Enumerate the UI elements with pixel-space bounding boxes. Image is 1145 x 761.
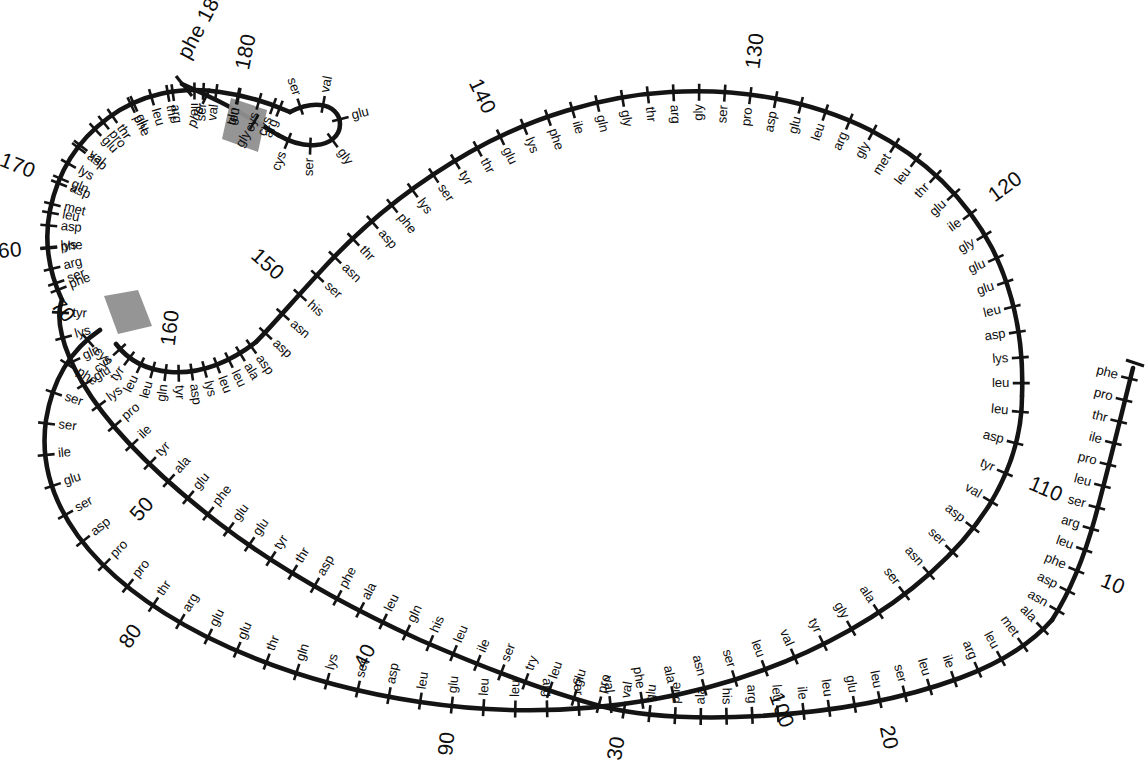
residue-label: thr [263, 633, 283, 653]
residue-label: thr [643, 106, 660, 123]
residue-tick [752, 707, 753, 724]
residue-label: gly [955, 234, 977, 256]
residue-label: val [317, 75, 335, 94]
residue-tick [172, 84, 174, 101]
residue-number-50: 50 [125, 492, 158, 525]
residue-label: his [305, 297, 328, 320]
residue-label: tyr [270, 531, 291, 552]
residue-label: pro [1077, 449, 1099, 468]
residue-label: gly [852, 139, 873, 161]
residue-label: gln [153, 383, 170, 402]
n-terminus-endbar [1126, 360, 1144, 366]
residue-label: thr [292, 544, 313, 565]
residue-label: ser [891, 663, 910, 685]
residue-label: arg [540, 678, 555, 697]
residue-number-90: 90 [433, 731, 458, 757]
residue-tick [451, 697, 453, 714]
residue-label: ser [1066, 491, 1088, 510]
residue-layer: pheprothrileproleuserargleupheaspasnalam… [38, 75, 1138, 725]
residue-label: glu [843, 674, 861, 694]
residue-label: lys [322, 652, 341, 672]
residue-tick [649, 705, 651, 722]
residue-label: glu [61, 469, 82, 489]
residue-label: glu [500, 144, 521, 166]
residue-label: phe [1095, 362, 1120, 382]
residue-label: ser [63, 389, 86, 409]
residue-label: ser [322, 278, 346, 302]
residue-label: val [777, 627, 797, 648]
residue-tick [1009, 331, 1026, 334]
residue-label: ser [301, 157, 317, 176]
residue-label: phe [1043, 550, 1069, 572]
residue-label: arg [830, 129, 851, 152]
residue-label: ser [570, 677, 586, 697]
residue-label: gly [831, 599, 852, 621]
residue-label: asn [690, 653, 710, 677]
residue-label: arg [1060, 512, 1082, 532]
residue-label: glu [975, 278, 996, 298]
residue-label: asp [383, 662, 402, 685]
residue-label: thr [153, 577, 174, 598]
residue-number-10: 10 [1098, 568, 1129, 598]
residue-tick [387, 687, 390, 704]
residue-label: ala [170, 453, 193, 476]
residue-label: arg [744, 684, 760, 703]
residue-label: gln [404, 602, 425, 624]
residue-label: asp [187, 383, 205, 406]
residue-label: leu [819, 678, 836, 697]
residue-tick [828, 700, 830, 717]
residue-label: phe [546, 126, 567, 151]
residue-label: lys [992, 350, 1009, 366]
residue-label: glu [190, 469, 213, 492]
residue-tick [165, 364, 167, 381]
residue-number-130: 130 [740, 31, 767, 70]
residue-label: ser [72, 492, 96, 514]
residue-label: asp [981, 427, 1005, 447]
residue-label: asp [270, 335, 296, 360]
protein-sequence-diagram: pheprothrileproleuserargleupheaspasnalam… [0, 0, 1145, 761]
residue-label: leu [450, 623, 471, 645]
residue-label: ser [720, 647, 740, 669]
residue-label: leu [381, 591, 402, 613]
residue-label: asp [60, 218, 82, 235]
residue-label: glu [249, 515, 271, 538]
residue-label: ile [940, 653, 958, 670]
residue-label: pro [129, 556, 152, 580]
residue-label: tyr [806, 616, 826, 636]
residue-tick [774, 91, 777, 108]
disulfide-cys70-cys161 [104, 290, 152, 334]
residue-label: glu [785, 115, 804, 136]
residue-number-120: 120 [983, 166, 1026, 206]
residue-number-30: 30 [602, 734, 629, 761]
residue-label: asp [1035, 568, 1060, 591]
residue-label: lys [415, 195, 437, 217]
residue-label: asp [942, 500, 968, 525]
residue-label: ala [661, 664, 679, 685]
c-terminus-label: phe 188 [172, 0, 229, 62]
residue-label: met [998, 613, 1023, 640]
residue-label: leu [476, 678, 492, 696]
residue-tick [647, 86, 649, 103]
residue-label: pro [738, 106, 755, 126]
residue-label: his [719, 688, 734, 705]
residue-tick [675, 707, 676, 724]
residue-label: cys [268, 148, 289, 172]
residue-label: asn [288, 316, 314, 341]
residue-label: leu [867, 669, 885, 689]
residue-number-160: 160 [156, 308, 183, 347]
residue-label: phe [336, 564, 360, 590]
residue-number-150: 150 [247, 243, 289, 284]
residue-label: arg [179, 591, 201, 615]
residue-number-140: 140 [465, 75, 501, 117]
residue-label: ala [857, 582, 879, 605]
residue-tick [673, 84, 674, 101]
residue-label: asp [375, 226, 400, 252]
residue-label: his [427, 613, 448, 635]
residue-tick [310, 138, 311, 155]
residue-label: glu [206, 606, 227, 628]
residue-tick [38, 422, 55, 424]
residue-label: pro [107, 537, 131, 561]
residue-label: leu [915, 657, 934, 678]
residue-label: lys [60, 237, 77, 253]
residue-label: ile [794, 686, 810, 700]
